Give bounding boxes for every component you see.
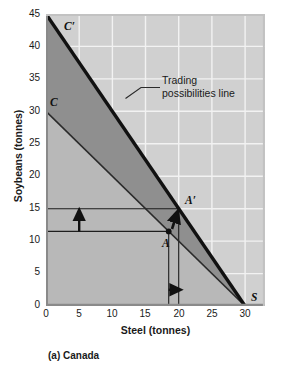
- y-tick-label-20: 20: [12, 170, 40, 180]
- y-tick-label-35: 35: [12, 73, 40, 83]
- x-tick-label-10: 10: [100, 309, 124, 319]
- y-tick-label-45: 45: [12, 9, 40, 19]
- y-tick-label-30: 30: [12, 106, 40, 116]
- y-tick-label-15: 15: [12, 203, 40, 213]
- y-tick-label-5: 5: [12, 267, 40, 277]
- y-tick-label-40: 40: [12, 41, 40, 51]
- point-label-C-prime: C′: [64, 20, 75, 32]
- x-tick-label-30: 30: [233, 309, 257, 319]
- point-label-A: A: [161, 237, 170, 249]
- plot-area: C′ C A′ A S Trading possibilities line: [46, 14, 265, 306]
- annotation-trading-line-2: possibilities line: [162, 87, 235, 99]
- point-label-C: C: [50, 96, 58, 108]
- point-label-S: S: [251, 291, 257, 303]
- y-axis-title: Soybeans (tonnes): [12, 56, 24, 256]
- figure-caption: (a) Canada: [48, 350, 99, 361]
- annotation-trading-line-1: Trading: [162, 74, 197, 86]
- chart-figure: Soybeans (tonnes) 45 40 35 30 25 20 15 1…: [0, 0, 286, 373]
- point-label-A-prime: A′: [184, 194, 196, 206]
- x-tick-label-0: 0: [34, 309, 58, 319]
- x-tick-label-25: 25: [200, 309, 224, 319]
- x-tick-label-15: 15: [133, 309, 157, 319]
- x-tick-label-20: 20: [167, 309, 191, 319]
- x-axis-title: Steel (tonnes): [46, 324, 265, 336]
- data-point-A: [166, 229, 172, 235]
- y-tick-label-25: 25: [12, 138, 40, 148]
- y-tick-label-10: 10: [12, 235, 40, 245]
- x-tick-label-5: 5: [67, 309, 91, 319]
